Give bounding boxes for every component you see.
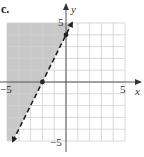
y-axis-label: y: [70, 3, 76, 15]
marked-point: [64, 32, 69, 37]
y-tick-label-neg5: −5: [50, 136, 62, 148]
y-tick-label-5: 5: [58, 16, 64, 28]
graph: −555−5xy: [0, 0, 144, 157]
x-axis-label: x: [134, 85, 140, 97]
marked-point: [40, 80, 45, 85]
x-tick-label-5: 5: [120, 83, 126, 95]
x-tick-label-neg5: −5: [0, 83, 12, 95]
y-axis-arrow-icon: [63, 3, 69, 10]
